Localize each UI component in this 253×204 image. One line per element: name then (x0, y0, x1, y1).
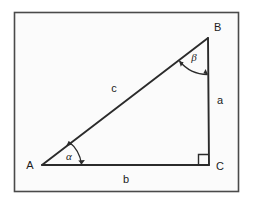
vertex-label-B: B (214, 21, 221, 33)
figure-container: A B C a b c α β (0, 0, 253, 204)
side-label-a: a (217, 94, 224, 106)
side-a-line (208, 38, 209, 165)
side-label-b: b (123, 173, 129, 185)
right-triangle-diagram: A B C a b c α β (0, 0, 253, 204)
vertex-label-A: A (26, 159, 34, 171)
angle-label-alpha: α (66, 150, 72, 162)
vertex-label-C: C (216, 160, 224, 172)
angle-label-beta: β (190, 51, 197, 63)
side-label-c: c (111, 82, 117, 94)
